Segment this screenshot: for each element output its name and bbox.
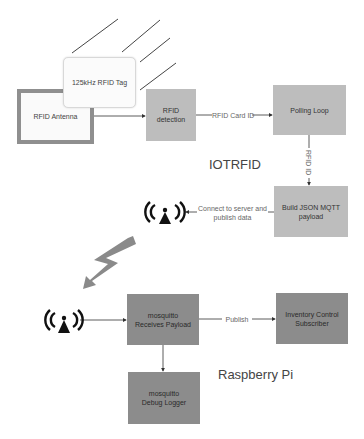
- mosquitto-debug-logger-node: mosquitto Debug Logger: [128, 372, 200, 424]
- edge-label-connect-line2: publish data: [197, 213, 268, 222]
- build-json-mqtt-node: Build JSON MQTT payload: [274, 186, 348, 237]
- node-label: Build JSON MQTT payload: [282, 203, 340, 221]
- node-label: Inventory Control Subscriber: [284, 310, 340, 328]
- edge-label-connect-line1: Connect to server and: [197, 204, 268, 213]
- node-label: RFID detection: [154, 106, 188, 124]
- edge-label-publish: Publish: [222, 315, 252, 324]
- node-label: Polling Loop: [290, 106, 329, 115]
- inventory-control-node: Inventory Control Subscriber: [276, 293, 348, 344]
- iot-rfid-diagram: RFID Antenna 125kHz RFID Tag RFID detect…: [0, 0, 364, 439]
- edge-label-rfid-id: RFID ID: [304, 150, 313, 175]
- mosquitto-receives-node: mosquitto Receives Payload: [127, 294, 199, 345]
- raspberry-pi-title: Raspberry Pi: [218, 367, 293, 382]
- node-label: RFID Antenna: [34, 112, 78, 121]
- node-label: mosquitto Debug Logger: [138, 389, 190, 407]
- node-label: 125kHz RFID Tag: [72, 78, 127, 87]
- rfid-detection-node: RFID detection: [146, 89, 196, 141]
- polling-loop-node: Polling Loop: [273, 85, 346, 135]
- rfid-tag-node: 125kHz RFID Tag: [63, 57, 136, 108]
- edge-label-card-id: RFID Card ID: [212, 111, 252, 120]
- lightning-bolt-icon: [83, 236, 136, 289]
- node-label: mosquitto Receives Payload: [133, 311, 193, 329]
- edge-label-connect: Connect to server and publish data: [197, 204, 268, 222]
- iotrfid-title: IOTRFID: [209, 157, 261, 172]
